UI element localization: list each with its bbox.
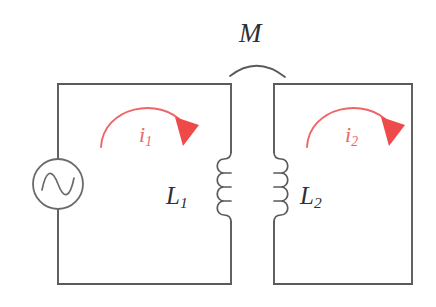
inductor-L1-symbol: L [166, 182, 180, 209]
circuit-schematic-canvas [0, 0, 436, 307]
inductor-L2-symbol: L [300, 182, 314, 209]
mutual-inductance-label: M [239, 20, 262, 47]
current-arrow-i1-head [175, 117, 199, 146]
mutual-inductance-symbol: M [239, 18, 262, 48]
current-arrow-i2-head [381, 117, 405, 146]
circuit-diagram-figure: M L1 L2 i1 i2 [0, 0, 436, 307]
inductor-L1-label: L1 [166, 183, 188, 211]
ac-source-sine-icon [42, 173, 74, 194]
inductor-L1-subscript: 1 [180, 194, 188, 211]
current-i2-subscript: 2 [351, 134, 358, 149]
mutual-coupling-arc [230, 66, 285, 77]
inductor-L2-subscript: 2 [314, 194, 322, 211]
current-i2-label: i2 [345, 124, 358, 148]
inductor-L1-coil [217, 152, 231, 222]
current-i1-label: i1 [139, 124, 152, 148]
current-i1-subscript: 1 [145, 134, 152, 149]
inductor-L2-label: L2 [300, 183, 322, 211]
inductor-L2-coil [274, 152, 288, 222]
